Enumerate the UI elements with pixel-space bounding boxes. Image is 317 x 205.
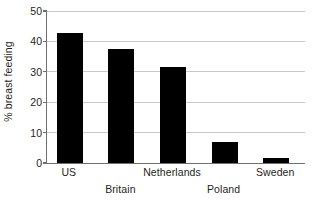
y-axis-tick (43, 41, 47, 42)
bar (263, 158, 289, 163)
y-axis-tick (43, 71, 47, 72)
plot-area (46, 11, 305, 164)
x-axis-category-label: Britain (70, 183, 170, 196)
y-axis-tick (43, 10, 47, 11)
y-axis-tick-label: 30 (16, 67, 42, 77)
y-axis-tick-label: 40 (16, 36, 42, 46)
y-axis-title: % breast feeding (1, 0, 15, 163)
x-axis-category-label: Netherlands (122, 166, 222, 179)
x-axis-category-label-group: USBritainNetherlandsPolandSweden (46, 166, 308, 205)
bar (160, 67, 186, 163)
y-axis-tick-label: 20 (16, 97, 42, 107)
y-axis-tick-label: 10 (16, 128, 42, 138)
bar (212, 142, 238, 163)
bar (108, 49, 134, 163)
y-axis-tick-label: 50 (16, 6, 42, 16)
x-axis-category-label: US (19, 166, 119, 179)
bar-chart-figure: % breast feeding 01020304050 USBritainNe… (0, 0, 317, 205)
y-axis-tick (43, 132, 47, 133)
y-axis-tick (43, 102, 47, 103)
bar (57, 33, 83, 163)
gridline (47, 11, 305, 12)
gridline (47, 41, 305, 42)
x-axis-category-label: Sweden (225, 166, 317, 179)
x-axis-category-label: Poland (174, 183, 274, 196)
y-axis-tick (43, 162, 47, 163)
